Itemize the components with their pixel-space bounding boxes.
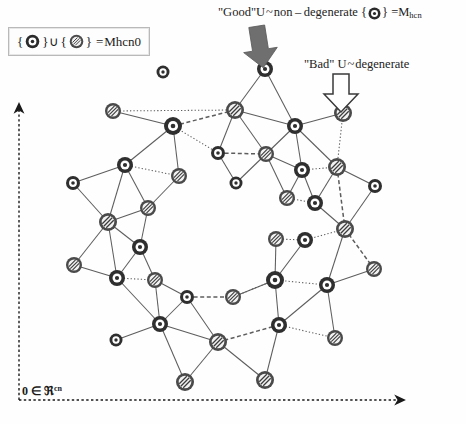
graph-edge [265,69,295,126]
graph-node-bad[interactable] [366,261,382,277]
graph-node-good[interactable] [307,195,323,211]
node-ring [123,163,127,167]
annotation-bad-relation: ~ [347,57,356,71]
graph-node-good[interactable] [180,290,194,304]
legend-manifold-letter: M [104,34,116,49]
solid-down-arrow-good [240,24,280,71]
graph-node-bad[interactable] [209,333,227,351]
node-ring [234,181,237,184]
node-ring [300,168,304,172]
node-ring [185,295,189,299]
annotation-good-manifold-letter: M [398,5,409,19]
graph-node-bad[interactable] [256,371,274,389]
graph-edge [279,285,327,325]
graph-node-bad[interactable] [279,190,295,206]
graph-edge [160,324,218,342]
annotation-bad: "Bad" U~degenerate [304,58,409,72]
graph-node-good[interactable] [230,177,243,190]
good-node-icon [24,33,41,50]
graph-node-bad[interactable] [328,158,346,176]
graph-edge [327,285,335,338]
graph-edge [173,110,235,126]
axis-space-exponent: cn [54,384,62,393]
graph-edge [279,325,335,338]
node-ring [303,238,307,242]
annotation-good-manifold: Mhcn [398,5,421,19]
annotation-good-set-close: } [382,5,388,19]
graph-node-bad[interactable] [258,146,274,162]
graph-node-bad[interactable] [105,103,121,119]
graph-edge [337,167,345,229]
node-ring [138,245,142,249]
legend-set-close-1: } [42,34,48,50]
node-ring [216,151,220,155]
node-ring [115,276,119,280]
graph-node-good[interactable] [211,146,225,160]
graph-node-bad[interactable] [226,101,244,119]
graph-node-good[interactable] [164,117,182,135]
axis-space-letter: ℜ [44,384,54,398]
node-ring [277,323,281,327]
legend-manifold: Mhcn0 [104,34,141,50]
graph-node-bad[interactable] [225,289,241,305]
graph-node-bad[interactable] [327,330,343,346]
graph-edge [160,324,185,382]
annotation-good-relation: ~ [265,5,274,19]
graph-node-good[interactable] [297,232,313,248]
graph-node-bad[interactable] [140,200,156,216]
graph-node-good[interactable] [66,176,80,190]
axis-origin-value: 0 [22,384,28,398]
annotation-good-u: U [256,5,265,19]
hollow-down-arrow-bad [324,74,358,112]
legend-manifold-subscript-zero: 0 [135,34,142,49]
legend-expression: { } ∪ { } = Mhcn0 [17,33,141,50]
graph-node-good[interactable] [109,270,125,286]
graph-node-bad[interactable] [99,213,117,231]
legend-set-open: { [17,34,23,50]
graph-node-good[interactable] [368,179,382,193]
graph-nodes [66,61,382,391]
node-ring [293,124,297,128]
graph-edge [113,110,235,111]
graph-node-good[interactable] [294,162,310,178]
graph-node-good[interactable] [117,157,133,173]
graph-edge [73,165,125,183]
graph-node-good[interactable] [266,271,284,289]
axis-member-symbol: ∈ [31,384,41,398]
annotation-good-prefix: "Good" [218,5,256,19]
graph-node-bad[interactable] [268,231,284,247]
node-ring [171,124,176,129]
node-ring [325,283,329,287]
graph-node-good[interactable] [132,239,148,255]
graph-node-bad[interactable] [147,272,163,288]
legend-set-open-2: { [60,34,66,50]
graph-node-good[interactable] [152,316,168,332]
node-ring [161,70,164,73]
graph-node-bad[interactable] [336,220,354,238]
graph-node-good[interactable] [271,317,287,333]
graph-edge [113,111,173,126]
node-ring [373,184,377,188]
annotation-bad-kind: degenerate [355,57,409,71]
node-ring [114,338,117,341]
annotation-good: "Good"U~non – degenerate { } =Mhcn [218,6,422,21]
graph-edge [218,325,279,342]
graph-node-good[interactable] [110,334,123,347]
axes-group [19,104,404,400]
legend-equals: = [96,34,103,50]
legend-manifold-subscript: hcn [116,34,135,49]
graph-node-good[interactable] [319,277,335,293]
good-node-icon [367,6,382,21]
graph-node-bad[interactable] [66,257,82,273]
legend-union-symbol: ∪ [49,34,59,50]
graph-node-good[interactable] [287,118,303,134]
bad-node-icon [68,33,85,50]
axis-space-symbol: ℜcn [44,384,62,398]
graph-node-bad[interactable] [176,373,194,391]
graph-node-bad[interactable] [171,168,187,184]
node-ring [158,322,162,326]
legend-box: { } ∪ { } = Mhcn0 [8,27,150,56]
annotation-bad-u: U [337,57,346,71]
node-ring [273,278,278,283]
graph-node-good[interactable] [157,66,170,79]
